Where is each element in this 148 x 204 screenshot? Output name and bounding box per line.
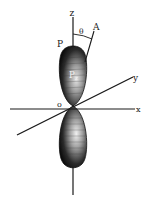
z-axis-label: z xyxy=(70,8,75,18)
origin-label: o xyxy=(57,100,62,109)
vector-oa xyxy=(85,31,94,62)
y-axis-label: y xyxy=(132,73,139,83)
theta-label: θ xyxy=(79,27,84,36)
p-label: P xyxy=(57,39,63,49)
x-axis-label: x xyxy=(136,105,141,114)
point-a-label: A xyxy=(92,22,100,32)
lower-lobe xyxy=(59,106,86,168)
pz-orbital-diagram: z A θ P Pz y o x xyxy=(0,0,148,204)
orbital-label-sub: z xyxy=(75,74,78,81)
